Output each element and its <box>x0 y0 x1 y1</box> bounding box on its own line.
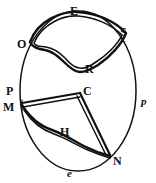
label-e-italic-arc: e <box>67 168 72 179</box>
outer-circle <box>20 11 136 171</box>
label-o: O <box>17 38 27 50</box>
label-m: M <box>3 101 15 113</box>
label-r: R <box>85 63 94 75</box>
label-e-top: E <box>70 5 78 17</box>
figure-container: E S . O R C P M H N p e <box>0 0 156 183</box>
label-s-subscript-mark: . <box>124 37 126 43</box>
label-p-upper: P <box>6 85 14 97</box>
label-n: N <box>113 155 122 167</box>
upper-region-outline <box>30 12 126 72</box>
label-p-italic-arc: p <box>141 96 147 107</box>
label-c: C <box>83 85 92 97</box>
geometric-figure-svg <box>0 0 156 183</box>
label-h: H <box>60 126 70 138</box>
